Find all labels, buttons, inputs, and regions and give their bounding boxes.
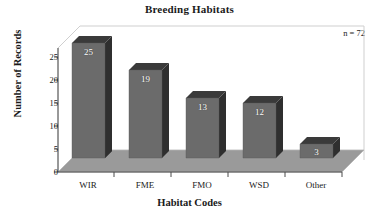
x-axis: [58, 172, 342, 177]
x-tick-fme: FME: [115, 180, 175, 190]
x-tick-wsd: WSD: [229, 180, 289, 190]
y-tick-10: 10: [32, 122, 58, 130]
bar-value-wsd: 12: [243, 107, 276, 117]
bar-wsd: [243, 96, 283, 158]
y-tick-15: 15: [32, 99, 58, 107]
bar-chart: Breeding Habitats Number of Records Habi…: [0, 0, 379, 216]
bar-value-other: 3: [300, 147, 333, 157]
x-tick-wir: WIR: [58, 180, 118, 190]
y-tick-20: 20: [32, 76, 58, 84]
x-tick-other: Other: [286, 180, 346, 190]
bar-value-fme: 19: [129, 74, 162, 84]
x-tick-fmo: FMO: [172, 180, 232, 190]
y-tick-5: 5: [32, 145, 58, 153]
y-tick-0: 0: [32, 168, 58, 176]
bar-value-wir: 25: [72, 47, 105, 57]
y-tick-25: 25: [32, 53, 58, 61]
bar-value-fmo: 13: [186, 102, 219, 112]
